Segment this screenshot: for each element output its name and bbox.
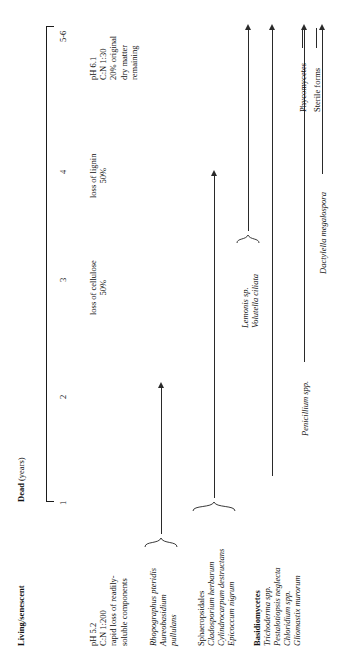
timeline-axis (46, 26, 47, 502)
brace-sphaeropsidales-group (192, 500, 236, 512)
taxon-label-trichoderma: Trichoderma spp. (262, 586, 272, 646)
timeline-axis-tick-start (46, 501, 54, 502)
occurrence-bar-dactylella (322, 28, 323, 174)
occurrence-bar-lemonis-group (248, 28, 249, 231)
conditions-living-line-2: rapid loss of readily- (108, 575, 118, 646)
conditions-year56: pH 6.1 C:N 1:30 20% original dry matter … (88, 36, 139, 80)
conditions-year4-line-0: loss of lignin (88, 154, 98, 198)
conditions-year56-line-0: pH 6.1 (88, 36, 98, 80)
brace-rhopographus-group (144, 536, 178, 548)
conditions-year3-line-1: 50% (98, 260, 108, 315)
taxon-label-epicoccum: Epicoccum nigrum (226, 582, 236, 646)
conditions-year3-line-0: loss of cellulose (88, 260, 98, 315)
taxon-label-dactylella: Dactylella megalospora (318, 192, 328, 274)
conditions-year4: loss of lignin 50% (88, 154, 108, 198)
taxon-label-basidiomycetes: Basidiomycetes (252, 590, 262, 646)
conditions-year56-line-2: 20% original (108, 36, 118, 80)
succession-figure: Living/senescent Dead (years) 1 2 3 4 5-… (0, 0, 348, 652)
arrowhead-rhopographus-group (158, 382, 164, 388)
occurrence-bar-basidiomycetes-group (272, 28, 273, 476)
occurrence-bar-rhopographus-group (161, 386, 162, 534)
timeline-tick-4: 4 (58, 170, 68, 174)
conditions-living-line-0: pH 5.2 (88, 575, 98, 646)
taxon-label-aureobasidium-species: pullulans (168, 614, 178, 646)
conditions-living: pH 5.2 C:N 1:200 rapid loss of readily- … (88, 575, 129, 646)
conditions-year56-line-4: remaining (129, 36, 139, 80)
occurrence-bar-phycomycetes (302, 28, 303, 48)
arrowhead-sphaeropsidales-group (211, 170, 217, 176)
taxon-label-phycomycetes: Phycomycetes (298, 63, 308, 112)
figure-viewport: Living/senescent Dead (years) 1 2 3 4 5-… (0, 0, 348, 652)
conditions-year56-line-1: C:N 1:30 (98, 36, 108, 80)
timeline-tick-5-6: 5-6 (58, 31, 68, 42)
taxon-label-sphaeropsidales: Sphaeropsidales (196, 591, 206, 646)
taxon-label-aureobasidium: Aureobasidium (158, 594, 168, 646)
taxon-label-rhopographus: Rhopographus pteridis (148, 568, 158, 646)
phase-label-dead-bold: Dead (16, 483, 26, 502)
occurrence-bar-sphaeropsidales-group (214, 174, 215, 498)
taxon-label-pestalotiopsis: Pestalotiopsis neglecta (272, 567, 282, 646)
conditions-living-line-3: soluble components (119, 575, 129, 646)
taxon-label-cladosporium: Cladosporium herbarum (206, 562, 216, 646)
phase-label-dead-units: (years) (16, 457, 26, 483)
taxon-label-sterile-forms: Sterile forms (312, 68, 322, 112)
taxon-label-gliomastix: Gliomastix murorum (292, 575, 302, 646)
taxon-label-lemonis: Lemonis sp. (240, 287, 250, 328)
timeline-axis-tick-end (46, 26, 54, 27)
arrowhead-basidiomycetes-group (269, 24, 275, 30)
arrowhead-lemonis-group (245, 24, 251, 30)
phase-label-living: Living/senescent (16, 585, 26, 646)
timeline-tick-3: 3 (58, 278, 68, 282)
taxon-label-volutella: Volutella ciliata (250, 274, 260, 328)
arrowhead-dactylella (319, 24, 325, 30)
conditions-living-line-1: C:N 1:200 (98, 575, 108, 646)
timeline-tick-2: 2 (58, 395, 68, 399)
conditions-year3: loss of cellulose 50% (88, 260, 108, 315)
phase-label-dead: Dead (years) (16, 457, 26, 502)
taxon-label-penicillium: Penicillium spp. (300, 381, 310, 436)
taxon-label-chloridium: Chloridium spp. (282, 591, 292, 646)
occurrence-bar-sterile-forms (316, 28, 317, 48)
brace-lemonis-group (236, 233, 260, 244)
conditions-year56-line-3: dry matter (119, 36, 129, 80)
taxon-label-cylindrocarpum: Cylindrocarpum destructans (216, 549, 226, 646)
conditions-year4-line-1: 50% (98, 154, 108, 198)
timeline-tick-1: 1 (58, 501, 68, 505)
